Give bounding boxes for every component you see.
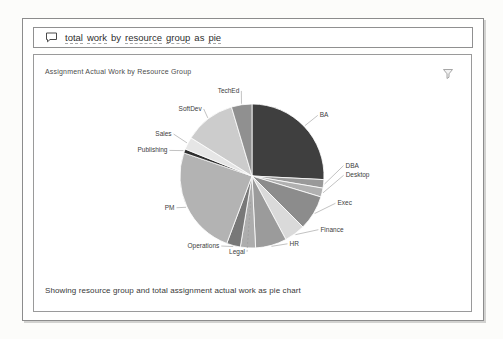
label-leader-line: [323, 175, 344, 193]
pie-label-Exec: Exec: [337, 199, 352, 206]
query-word: resource: [125, 32, 162, 44]
pie-label-Finance: Finance: [320, 226, 344, 233]
pie-label-Publishing: Publishing: [137, 146, 167, 154]
query-word: work: [87, 32, 107, 44]
query-word: group: [166, 32, 190, 44]
query-word: as: [194, 32, 204, 44]
question-input[interactable]: totalworkbyresourcegroupaspie: [33, 27, 473, 48]
pie-chart: BADBADesktopExecFinanceHRLegalOperations…: [34, 55, 471, 311]
pie-label-TechEd: TechEd: [218, 87, 240, 94]
pie-slice-BA[interactable]: [252, 104, 324, 180]
pie-label-PM: PM: [165, 204, 175, 211]
status-text: Showing resource group and total assignm…: [45, 286, 301, 295]
pie-label-Sales: Sales: [155, 130, 172, 137]
qa-result-frame: totalworkbyresourcegroupaspie Assignment…: [22, 18, 484, 321]
label-leader-line: [325, 166, 344, 184]
query-word: by: [111, 32, 121, 44]
label-leader-line: [204, 109, 208, 118]
speech-bubble-icon: [45, 32, 58, 43]
label-leader-line: [221, 246, 233, 247]
pie-label-Legal: Legal: [229, 248, 245, 256]
pie-label-Desktop: Desktop: [346, 171, 370, 179]
query-word: pie: [208, 32, 221, 44]
label-leader-line: [305, 115, 318, 125]
pie-label-BA: BA: [320, 111, 329, 118]
pie-label-SoftDev: SoftDev: [179, 105, 203, 112]
label-leader-line: [174, 134, 187, 143]
pie-label-Operations: Operations: [188, 242, 221, 250]
query-word: total: [65, 32, 83, 44]
query-text: totalworkbyresourcegroupaspie: [65, 32, 221, 44]
pie-label-DBA: DBA: [345, 162, 359, 169]
chart-card: Assignment Actual Work by Resource Group…: [33, 54, 472, 312]
pie-label-HR: HR: [289, 240, 299, 247]
